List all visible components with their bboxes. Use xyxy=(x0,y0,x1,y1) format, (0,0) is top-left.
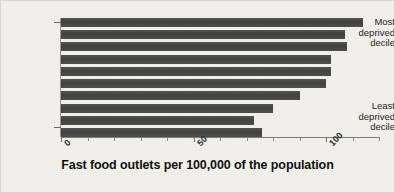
bar-row xyxy=(61,67,379,76)
x-axis-tick-label: 0 xyxy=(62,137,73,148)
bar xyxy=(61,55,331,64)
bar xyxy=(61,30,345,39)
x-axis-minor-tick xyxy=(353,137,354,141)
bar xyxy=(61,18,363,27)
bar xyxy=(61,79,326,88)
x-axis-minor-tick xyxy=(88,137,89,141)
y-axis-tick-least-deprived xyxy=(54,127,61,128)
bar-row xyxy=(61,42,379,51)
x-axis-minor-tick xyxy=(300,137,301,141)
bar-row xyxy=(61,18,379,27)
bar xyxy=(61,67,331,76)
bar-row xyxy=(61,55,379,64)
x-axis-title: Fast food outlets per 100,000 of the pop… xyxy=(0,158,395,172)
bar xyxy=(61,128,262,137)
x-axis-minor-tick xyxy=(379,137,380,141)
x-axis-minor-tick xyxy=(114,137,115,141)
plot-area xyxy=(61,18,379,137)
bar-series xyxy=(61,18,379,137)
x-axis-minor-tick xyxy=(247,137,248,141)
bar-row xyxy=(61,79,379,88)
x-axis-minor-tick xyxy=(220,137,221,141)
x-axis-minor-tick xyxy=(273,137,274,141)
bar xyxy=(61,91,300,100)
bar-row xyxy=(61,116,379,125)
bar xyxy=(61,116,254,125)
x-axis-minor-tick xyxy=(141,137,142,141)
bar-row xyxy=(61,91,379,100)
fast-food-outlets-bar-chart: Most deprived decile Least deprived deci… xyxy=(0,0,395,193)
bar-row xyxy=(61,104,379,113)
bar xyxy=(61,104,273,113)
bar-row xyxy=(61,30,379,39)
x-axis-minor-tick xyxy=(167,137,168,141)
bar xyxy=(61,42,347,51)
y-axis-tick-most-deprived xyxy=(54,22,61,23)
